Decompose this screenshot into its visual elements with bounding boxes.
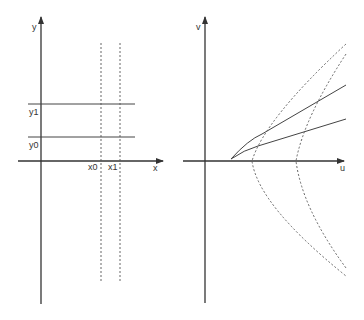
x0-label: x0	[88, 162, 98, 172]
v-axis-label: v	[196, 22, 201, 32]
dashed-curve-image-of-x0	[252, 44, 346, 276]
y1-label: y1	[29, 107, 39, 117]
u-axis-label: u	[340, 163, 345, 173]
y0-label: y0	[29, 140, 39, 150]
solid-curve-image-of-y1	[231, 85, 346, 159]
left-panel-xy-plane: y x x0 x1 y1 y0	[18, 17, 163, 304]
x-axis-label: x	[153, 163, 158, 173]
mapping-diagram: y x x0 x1 y1 y0 v u	[0, 0, 364, 320]
solid-curve-image-of-y0	[231, 119, 346, 159]
y-axis-label: y	[32, 22, 37, 32]
right-panel-uv-plane: v u	[183, 17, 346, 303]
x1-label: x1	[108, 162, 118, 172]
